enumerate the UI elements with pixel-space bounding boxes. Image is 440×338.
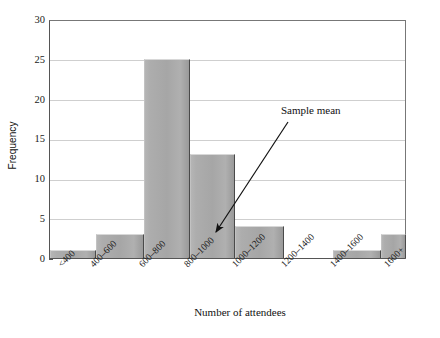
gridline-25 bbox=[50, 60, 405, 61]
y-tick-label-5: 5 bbox=[19, 214, 45, 224]
x-axis-title: Number of attendees bbox=[0, 306, 440, 318]
y-axis-tick-labels: 0 5 10 15 20 25 30 bbox=[16, 0, 45, 338]
gridline-20 bbox=[50, 100, 405, 101]
histogram-figure: Frequency 0 5 10 15 20 25 30 <400 400–60… bbox=[0, 0, 440, 338]
gridline-15 bbox=[50, 140, 405, 141]
bar-600-800 bbox=[144, 59, 190, 258]
y-tick-mark-0 bbox=[49, 259, 53, 260]
y-tick-label-10: 10 bbox=[19, 174, 45, 184]
plot-area bbox=[49, 20, 406, 259]
y-tick-label-20: 20 bbox=[19, 95, 45, 105]
y-tick-label-25: 25 bbox=[19, 55, 45, 65]
y-tick-label-15: 15 bbox=[19, 134, 45, 144]
annotation-sample-mean-label: Sample mean bbox=[281, 104, 341, 116]
y-tick-label-0: 0 bbox=[19, 254, 45, 264]
y-tick-label-30: 30 bbox=[19, 15, 45, 25]
